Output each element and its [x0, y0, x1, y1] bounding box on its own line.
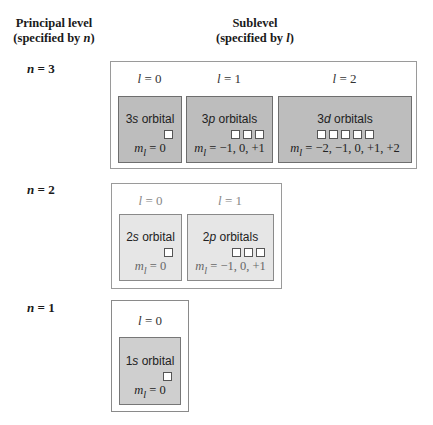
- principal-header-line2: (specified by n): [4, 31, 104, 46]
- orbital-slot: [365, 130, 374, 139]
- n3-l2-label: l = 2: [278, 71, 411, 87]
- n2-label: n = 2: [27, 182, 55, 198]
- orbital-3d-box: 3d orbitals ml = −2, −1, 0, +1, +2: [278, 96, 412, 163]
- orbital-2p-box: 2p orbitals ml = −1, 0, +1: [187, 214, 274, 281]
- orbital-3p-name: 3p orbitals: [187, 112, 272, 126]
- orbital-slot: [317, 130, 326, 139]
- orbital-slot: [255, 130, 264, 139]
- orbital-slot: [244, 248, 253, 257]
- orbital-1s-ml: ml = 0: [120, 383, 180, 400]
- orbital-3p-ml: ml = −1, 0, +1: [187, 141, 272, 158]
- orbital-2s-ml: ml = 0: [120, 259, 181, 276]
- orbital-3p-box: 3p orbitals ml = −1, 0, +1: [186, 96, 273, 163]
- sublevel-header-line1: Sublevel: [205, 16, 305, 31]
- n3-l1-label: l = 1: [186, 71, 272, 87]
- orbital-3p-slots: [187, 130, 272, 139]
- orbital-slot: [243, 130, 252, 139]
- orbital-3s-box: 3s orbital ml = 0: [118, 96, 182, 163]
- orbital-slot: [329, 130, 338, 139]
- orbital-2s-slots: [120, 248, 181, 257]
- n2-l1-label: l = 1: [187, 193, 273, 209]
- orbital-slot: [232, 248, 241, 257]
- orbital-slot: [163, 372, 172, 381]
- orbital-3d-name: 3d orbitals: [279, 112, 411, 126]
- n3-l0-label: l = 0: [118, 71, 181, 87]
- orbital-2p-name: 2p orbitals: [188, 230, 273, 244]
- n1-l0-label: l = 0: [119, 313, 181, 329]
- sublevel-header: Sublevel (specified by l): [205, 16, 305, 46]
- orbital-slot: [353, 130, 362, 139]
- principal-header-line1: Principal level: [4, 16, 104, 31]
- orbital-3d-slots: [279, 130, 411, 139]
- orbital-slot: [231, 130, 240, 139]
- orbital-3s-slots: [119, 130, 181, 139]
- orbital-2p-ml: ml = −1, 0, +1: [188, 259, 273, 276]
- sublevel-header-line2: (specified by l): [205, 31, 305, 46]
- orbital-2s-name: 2s orbital: [120, 230, 181, 244]
- orbital-slot: [164, 130, 173, 139]
- orbital-3s-name: 3s orbital: [119, 112, 181, 126]
- orbital-slot: [256, 248, 265, 257]
- orbital-3d-ml: ml = −2, −1, 0, +1, +2: [279, 141, 411, 158]
- orbital-slot: [341, 130, 350, 139]
- n2-l0-label: l = 0: [119, 193, 182, 209]
- orbital-3s-ml: ml = 0: [119, 141, 181, 158]
- principal-level-header: Principal level (specified by n): [4, 16, 104, 46]
- orbital-1s-name: 1s orbital: [120, 354, 180, 368]
- orbital-1s-slots: [120, 372, 180, 381]
- n1-label: n = 1: [27, 300, 55, 316]
- orbital-slot: [164, 248, 173, 257]
- orbital-2s-box: 2s orbital ml = 0: [119, 214, 182, 281]
- orbital-2p-slots: [188, 248, 273, 257]
- n3-label: n = 3: [27, 61, 55, 77]
- orbital-1s-box: 1s orbital ml = 0: [119, 337, 181, 405]
